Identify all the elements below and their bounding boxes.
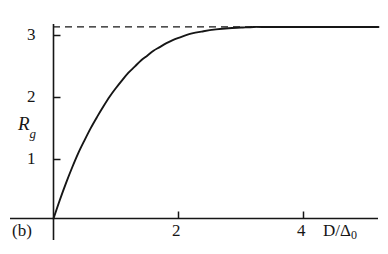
panel-label: (b): [12, 221, 32, 241]
y-tick-label-3: 3: [27, 26, 36, 43]
data-curve: [54, 27, 379, 219]
x-tick-label-2: 2: [172, 222, 181, 239]
x-axis-title: D/Δ0: [323, 221, 357, 241]
x-axis-title-numerator: D/: [323, 221, 340, 240]
x-axis-title-subscript: 0: [351, 228, 357, 242]
x-tick-label-4: 4: [297, 222, 306, 239]
y-axis-title-subscript: g: [30, 126, 37, 141]
y-tick-label-2: 2: [27, 88, 36, 105]
x-axis-title-delta: Δ: [340, 221, 351, 240]
y-axis-title: Rg: [18, 113, 36, 139]
y-axis-title-main: R: [18, 113, 30, 134]
figure-panel: 3 2 1 2 4 Rg D/Δ0 (b): [0, 0, 388, 254]
y-tick-label-1: 1: [27, 150, 36, 167]
chart-canvas: [0, 0, 388, 254]
